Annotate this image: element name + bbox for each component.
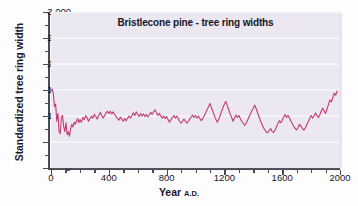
x-tick-minor xyxy=(196,170,197,173)
x-axis-title-main: Year xyxy=(159,186,181,198)
gridlines xyxy=(51,12,340,142)
chart-figure: Standardized tree ring width 05001,0001,… xyxy=(0,0,358,206)
x-tick-label: 1600 xyxy=(272,172,293,183)
x-tick-minor xyxy=(210,170,211,173)
y-tick-major xyxy=(43,142,48,143)
data-line-svg xyxy=(51,12,340,168)
x-tick-minor xyxy=(80,170,81,173)
x-tick-minor xyxy=(326,170,327,173)
y-tick-minor xyxy=(45,77,48,78)
x-tick-minor xyxy=(123,170,124,173)
x-tick-minor xyxy=(297,170,298,173)
x-tick-minor xyxy=(239,170,240,173)
y-tick-minor xyxy=(45,51,48,52)
x-tick-label: 0 xyxy=(48,172,53,183)
chart-title: Bristlecone pine - tree ring widths xyxy=(51,17,340,28)
x-tick-label: 400 xyxy=(101,172,117,183)
y-tick-minor xyxy=(45,25,48,26)
series-line-standardized-tree-ring-width xyxy=(51,89,337,136)
x-tick-label: 1200 xyxy=(214,172,235,183)
y-axis-title: Standardized tree ring width xyxy=(13,7,25,177)
x-tick-minor xyxy=(138,170,139,173)
y-tick-minor xyxy=(45,155,48,156)
x-tick-label: 2000 xyxy=(329,172,350,183)
x-tick-minor xyxy=(311,170,312,173)
y-tick-major xyxy=(43,168,48,169)
y-tick-minor xyxy=(45,103,48,104)
x-tick-label: 800 xyxy=(159,172,175,183)
x-tick-minor xyxy=(152,170,153,173)
x-axis-title-suffix: A.D. xyxy=(184,189,199,198)
x-tick-minor xyxy=(253,170,254,173)
x-axis-title: Year A.D. xyxy=(0,186,358,198)
x-tick-minor xyxy=(94,170,95,173)
x-tick-minor xyxy=(181,170,182,173)
plot-area xyxy=(51,12,340,168)
x-tick-minor xyxy=(268,170,269,173)
y-tick-minor xyxy=(45,129,48,130)
